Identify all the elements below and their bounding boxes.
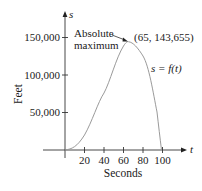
annotation-maximum: maximum	[74, 39, 119, 51]
y-tick-label-150000: 150,000	[24, 31, 60, 43]
x-tick-label-100: 100	[154, 154, 171, 166]
y-tick-label-100000: 100,000	[24, 69, 60, 81]
x-tick-label-20: 20	[79, 154, 91, 166]
chart-svg: s t 50,000 100,000 150,000 20 40 60 80 1…	[0, 0, 202, 191]
x-tick-label-80: 80	[138, 154, 150, 166]
max-point-label: (65, 143,655)	[134, 31, 194, 44]
x-axis-title: Seconds	[104, 167, 143, 179]
x-tick-label-40: 40	[99, 154, 111, 166]
x-tick-label-60: 60	[118, 154, 130, 166]
curve-label: s = f(t)	[151, 62, 182, 75]
x-axis-arrow-icon	[181, 148, 187, 153]
curve-s-equals-f-of-t	[65, 42, 162, 150]
y-axis-symbol: s	[69, 8, 73, 20]
y-axis-title: Feet	[12, 83, 24, 104]
y-axis-arrow-icon	[63, 11, 68, 17]
annotation-absolute: Absolute	[74, 27, 114, 39]
x-axis-symbol: t	[190, 143, 194, 155]
y-tick-label-50000: 50,000	[30, 106, 61, 118]
annotation-arrow-icon	[123, 38, 129, 42]
